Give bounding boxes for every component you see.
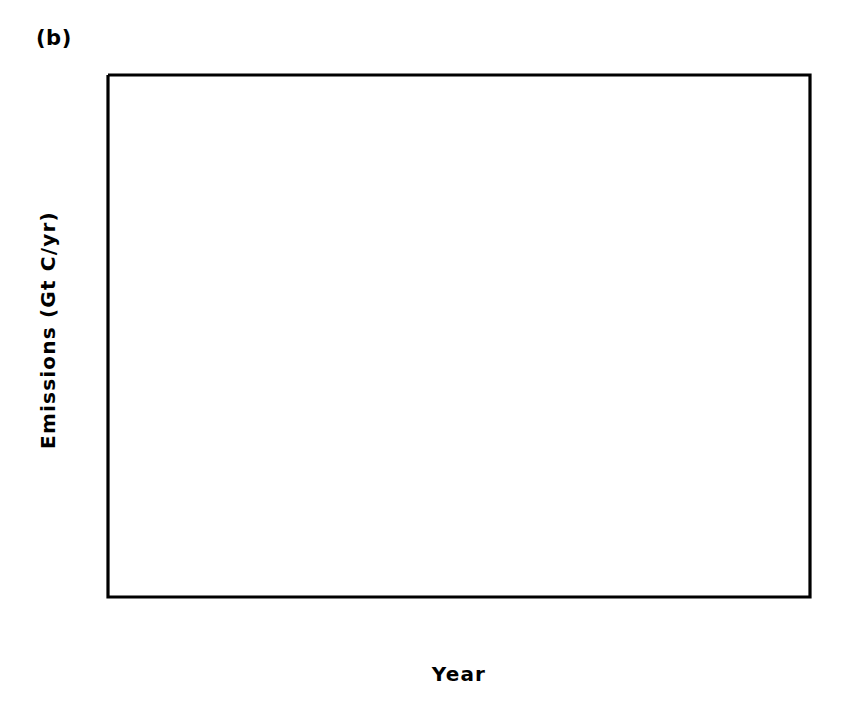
plot-area xyxy=(0,0,865,709)
chart-figure: (b) Emissions (Gt C/yr) Year xyxy=(0,0,865,709)
axes-frame xyxy=(108,75,810,597)
axis-box xyxy=(108,75,810,597)
